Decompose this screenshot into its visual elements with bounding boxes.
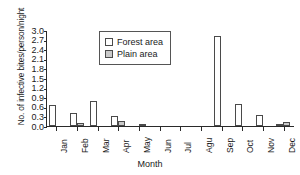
- y-axis-tick-label: 3.0: [31, 27, 44, 36]
- bar-nov-forest-area: [256, 115, 263, 126]
- legend-label-plain-area: Plain area: [117, 50, 158, 59]
- bar-mar-forest-area: [90, 101, 97, 126]
- legend-swatch-plain-area: [105, 50, 113, 58]
- x-axis-tick-label-jan: Jan: [60, 139, 69, 153]
- legend-item-plain-area: Plain area: [105, 48, 163, 60]
- x-axis-tick-label-jun: Jun: [164, 139, 173, 153]
- bar-chart-figure: No. of infective bites/person/night 0.00…: [0, 0, 300, 175]
- bar-group: [274, 31, 295, 126]
- y-axis-tick-label: 1.5: [31, 75, 44, 84]
- x-axis-tick-label-may: May: [143, 137, 152, 153]
- y-axis-tick-mark: [44, 98, 47, 99]
- y-axis-tick-mark: [44, 89, 47, 90]
- y-axis-tick-label: 0.3: [31, 113, 44, 122]
- x-axis-tick-label-dec: Dec: [288, 138, 297, 153]
- x-axis-tick-labels: JanFebMarAprMayJunJulAguSepOctNovDec: [46, 131, 294, 157]
- bar-may-plain-area: [139, 124, 146, 126]
- bar-sep-forest-area: [214, 36, 221, 126]
- bar-group: [47, 31, 68, 126]
- bar-apr-forest-area: [111, 116, 118, 126]
- y-axis-tick-labels: 0.00.30.60.91.21.51.82.12.42.73.0: [14, 26, 44, 128]
- legend-item-forest-area: Forest area: [105, 36, 163, 48]
- bar-group: [212, 31, 233, 126]
- x-axis-tick-label-feb: Feb: [81, 138, 90, 153]
- bar-dec-plain-area: [283, 122, 290, 126]
- bar-jan-forest-area: [49, 105, 56, 126]
- x-axis-tick-label-nov: Nov: [267, 138, 276, 153]
- bar-group: [233, 31, 254, 126]
- chart-legend: Forest area Plain area: [99, 31, 171, 65]
- y-axis-tick-mark: [44, 41, 47, 42]
- bar-group: [68, 31, 89, 126]
- y-axis-tick-label: 2.7: [31, 36, 44, 45]
- bar-group: [171, 31, 192, 126]
- bar-feb-forest-area: [70, 113, 77, 126]
- bar-dec-forest-area: [276, 124, 283, 126]
- y-axis-tick-label: 0.6: [31, 103, 44, 112]
- bar-group: [254, 31, 275, 126]
- x-axis-tick-label-mar: Mar: [102, 138, 111, 153]
- y-axis-tick-label: 2.4: [31, 46, 44, 55]
- x-axis-tick-label-oct: Oct: [246, 140, 255, 153]
- bar-group: [192, 31, 213, 126]
- x-axis-tick-label-jul: Jul: [184, 142, 193, 153]
- bar-apr-plain-area: [118, 121, 125, 126]
- y-axis-tick-label: 2.1: [31, 55, 44, 64]
- y-axis-tick-mark: [44, 117, 47, 118]
- y-axis-tick-mark: [44, 79, 47, 80]
- x-axis-title: Month: [0, 159, 300, 169]
- x-axis-tick-label-sep: Sep: [226, 138, 235, 153]
- y-axis-tick-mark: [44, 60, 47, 61]
- y-axis-tick-label: 1.2: [31, 84, 44, 93]
- x-axis-tick-label-agu: Agu: [205, 138, 214, 153]
- y-axis-tick-mark: [44, 69, 47, 70]
- x-axis-tick-label-apr: Apr: [122, 140, 131, 153]
- y-axis-tick-label: 1.8: [31, 65, 44, 74]
- legend-label-forest-area: Forest area: [117, 38, 163, 47]
- bar-oct-forest-area: [235, 104, 242, 126]
- y-axis-tick-label: 0.9: [31, 94, 44, 103]
- legend-swatch-forest-area: [105, 38, 113, 46]
- bar-feb-plain-area: [77, 123, 84, 126]
- y-axis-tick-mark: [44, 31, 47, 32]
- y-axis-tick-label: 0.0: [31, 123, 44, 132]
- y-axis-tick-mark: [44, 50, 47, 51]
- y-axis-tick-mark: [44, 108, 47, 109]
